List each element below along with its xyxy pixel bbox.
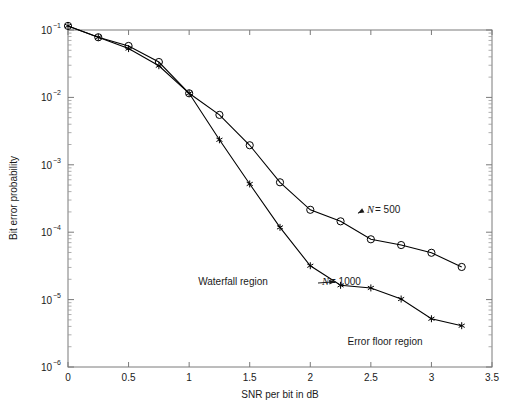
y-tick-label-exponent: −2	[53, 89, 61, 96]
x-tick-label: 0	[65, 372, 71, 383]
y-tick-label-exponent: −5	[53, 292, 61, 299]
y-tick-label-base: 10	[41, 160, 53, 171]
x-tick-label: 3	[429, 372, 435, 383]
y-tick-label-exponent: −4	[53, 224, 61, 231]
annotation-n1000: N = 1000	[318, 276, 361, 287]
ber-performance-chart: 00.511.522.533.5 10−110−210−310−410−510−…	[0, 0, 508, 407]
x-tick-label: 2.5	[364, 372, 378, 383]
y-tick-label-base: 10	[41, 92, 53, 103]
x-tick-label: 1	[186, 372, 192, 383]
y-tick-label-base: 10	[41, 25, 53, 36]
y-tick-label-exponent: −6	[53, 359, 61, 366]
y-tick-label-base: 10	[41, 227, 53, 238]
y-tick-label-base: 10	[41, 362, 53, 373]
x-axis-title: SNR per bit in dB	[241, 389, 319, 400]
y-axis-title: Bit error probability	[8, 156, 19, 240]
chart-background	[0, 0, 508, 407]
annotation-n500-variable: N	[366, 204, 375, 215]
x-tick-label: 3.5	[485, 372, 499, 383]
x-tick-label: 2	[308, 372, 314, 383]
annotation-n1000-variable: N	[321, 276, 330, 287]
annotation-error-floor-region: Error floor region	[347, 336, 422, 347]
y-tick-label-base: 10	[41, 295, 53, 306]
annotation-n500-value: = 500	[375, 204, 401, 215]
x-tick-label: 0.5	[122, 372, 136, 383]
y-tick-label-exponent: −1	[53, 22, 61, 29]
y-tick-label-exponent: −3	[53, 157, 61, 164]
chart-svg: 00.511.522.533.5 10−110−210−310−410−510−…	[0, 0, 508, 407]
annotation-waterfall-region: Waterfall region	[198, 276, 268, 287]
x-tick-label: 1.5	[243, 372, 257, 383]
